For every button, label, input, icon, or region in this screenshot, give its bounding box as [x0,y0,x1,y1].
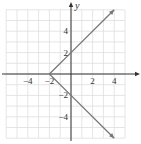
x-tick-label: 4 [112,76,117,86]
y-tick-label: −4 [58,112,68,122]
y-tick-label: 2 [64,48,69,58]
y-axis-label: y [74,0,80,11]
x-tick-label: −2 [45,76,55,86]
coordinate-plane: −4−22442−2−4 y [0,0,141,144]
x-tick-label: 2 [90,76,95,86]
y-axis-arrow-icon [69,2,73,7]
y-tick-label: 4 [64,26,69,36]
axes [2,2,140,141]
y-tick-label: −2 [58,90,68,100]
x-tick-label: −4 [23,76,33,86]
x-axis-arrow-icon [135,72,140,76]
